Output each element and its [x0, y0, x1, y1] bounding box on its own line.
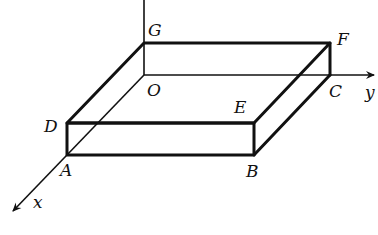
label-F: F: [336, 29, 350, 49]
label-D: D: [43, 116, 58, 136]
edge-CB: [254, 75, 330, 155]
front-face: [67, 123, 254, 155]
label-x-axis: x: [33, 192, 43, 212]
x-axis-line: [13, 75, 144, 211]
label-G: G: [148, 20, 162, 40]
label-E: E: [233, 97, 247, 117]
label-A: A: [58, 160, 72, 180]
top-face: [67, 43, 330, 123]
box-diagram: G F O C y E D A B x: [0, 0, 378, 235]
label-B: B: [245, 161, 259, 181]
label-C: C: [329, 81, 342, 101]
label-O: O: [147, 80, 161, 100]
label-y-axis: y: [364, 82, 375, 102]
